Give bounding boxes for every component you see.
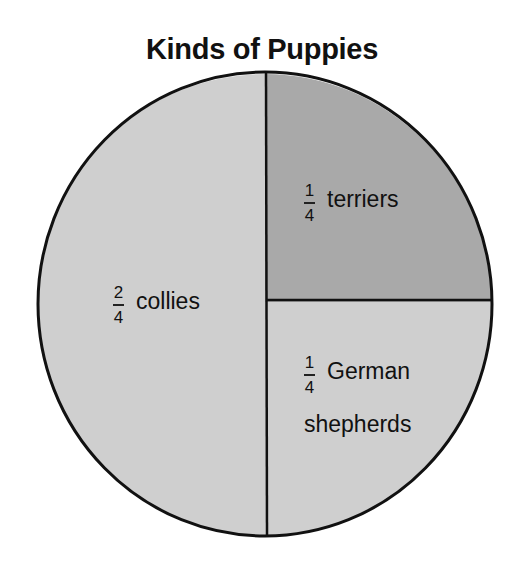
denominator: 4 — [305, 379, 314, 397]
fraction-bar — [304, 374, 315, 376]
label-text: collies — [136, 288, 200, 314]
fraction-bar — [113, 304, 124, 306]
divider-vertical — [266, 72, 267, 537]
pie-chart — [0, 0, 524, 587]
fraction-collies: 2 4 — [113, 284, 124, 327]
numerator: 1 — [305, 182, 314, 200]
denominator: 4 — [114, 309, 123, 327]
label-terriers: 1 4 terriers — [304, 186, 399, 225]
label-collies: 2 4 collies — [113, 288, 200, 327]
label-text-line2: shepherds — [304, 411, 411, 437]
fraction-german-shepherds: 1 4 — [304, 354, 315, 397]
numerator: 1 — [305, 354, 314, 372]
denominator: 4 — [305, 207, 314, 225]
label-german-shepherds: 1 4 German shepherds — [304, 358, 411, 437]
label-text-line1: German — [327, 358, 410, 384]
label-text: terriers — [327, 186, 399, 212]
fraction-terriers: 1 4 — [304, 182, 315, 225]
fraction-bar — [304, 202, 315, 204]
numerator: 2 — [114, 284, 123, 302]
